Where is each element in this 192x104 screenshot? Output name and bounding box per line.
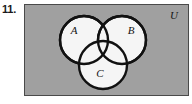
universe-set-label: U (170, 9, 179, 21)
venn-diagram-canvas: A B C U (0, 0, 192, 104)
set-label-c: C (96, 67, 104, 79)
set-label-a: A (70, 24, 78, 36)
venn-diagram-figure: 11. A B C U (0, 0, 192, 104)
set-label-b: B (128, 24, 135, 36)
